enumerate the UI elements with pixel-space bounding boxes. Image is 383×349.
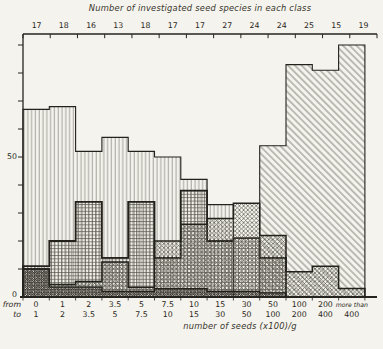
series-group [23,45,365,297]
class-from-label: 100 [292,300,307,309]
histogram-chart: 17181613181717272424251519fromto0123.557… [0,0,383,349]
class-to-label: 7.5 [135,310,147,319]
top-axis-count-label: 13 [113,21,123,30]
class-from-label: 3.5 [109,300,121,309]
figure-page: Number of investigated seed species in e… [0,0,383,349]
top-axis-count-label: 25 [304,21,314,30]
top-axis-count-label: 17 [32,21,42,30]
top-axis: 17181613181717272424251519 [23,21,377,38]
class-to-label: 5 [113,310,118,319]
y-axis-label-50: 50 [2,152,17,161]
top-axis-count-label: 24 [277,21,287,30]
top-axis-count-label: 16 [86,21,96,30]
class-from-label: 1 [60,300,65,309]
x-axis-class-labels: fromto0123.557.510153050100200more than1… [3,300,368,319]
class-from-label: 15 [215,300,225,309]
class-to-label: 100 [265,310,280,319]
top-axis-count-label: 19 [358,21,368,30]
class-from-label: 2 [86,300,91,309]
top-axis-count-label: 27 [222,21,232,30]
class-from-label: 30 [242,300,252,309]
from-row-label: from [3,300,22,309]
top-axis-count-label: 24 [250,21,260,30]
y-axis [18,34,23,297]
top-axis-count-label: 18 [59,21,69,30]
class-from-label: 0 [34,300,39,309]
y-axis-label-0: 0 [2,290,17,299]
class-from-label: 200 [318,300,333,309]
class-to-label: 200 [292,310,307,319]
class-to-label: 400 [318,310,333,319]
class-to-label: 400 [344,310,359,319]
class-to-label: 10 [163,310,173,319]
top-axis-count-label: 17 [195,21,205,30]
top-axis-count-label: 18 [141,21,151,30]
class-from-label: 10 [189,300,199,309]
top-axis-count-label: 15 [331,21,341,30]
class-to-label: 1 [34,310,39,319]
class-from-label: more than [336,301,368,308]
class-to-label: 2 [60,310,65,319]
class-from-label: 5 [139,300,144,309]
x-axis-title: number of seeds (x100)/g [100,321,380,331]
top-axis-count-label: 17 [168,21,178,30]
class-to-label: 15 [189,310,199,319]
class-from-label: 7.5 [161,300,173,309]
class-from-label: 50 [268,300,278,309]
class-to-label: 3.5 [83,310,95,319]
to-row-label: to [13,310,21,319]
class-to-label: 30 [215,310,225,319]
class-to-label: 50 [242,310,252,319]
